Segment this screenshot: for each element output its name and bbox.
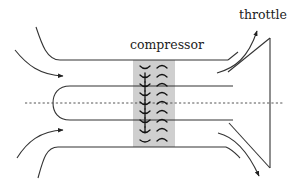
outlet-arrow-upper	[217, 31, 257, 73]
outlet-deflector-lower	[226, 147, 240, 158]
inlet-arrow-lower	[17, 130, 63, 158]
throttle-label: throttle	[239, 7, 287, 22]
compressor-throttle-diagram: compressor throttle	[0, 0, 293, 185]
inlet-arrow-upper	[15, 50, 63, 76]
outlet-deflector-upper	[228, 52, 238, 60]
outlet-arrow-lower	[218, 133, 259, 176]
outer-duct-bottom	[38, 147, 226, 178]
compressor-label: compressor	[130, 37, 204, 52]
